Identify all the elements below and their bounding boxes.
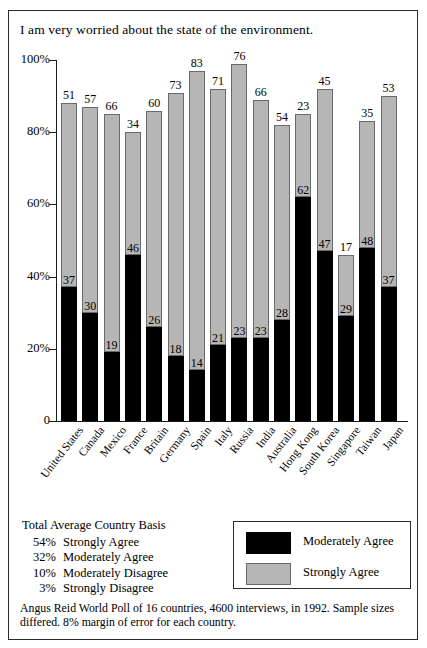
bar-value-strongly-agree: 23 (289, 100, 317, 112)
summary-label: Strongly Disagree (63, 581, 154, 595)
bar-group[interactable]: 3548 (359, 121, 375, 421)
summary-heading: Total Average Country Basis (22, 518, 222, 534)
bar-segment-strongly-agree[interactable] (146, 111, 162, 328)
summary-row: 54%Strongly Agree (22, 535, 222, 551)
y-axis-tick-label: 40% (4, 269, 50, 284)
legend-label: Strongly Agree (303, 565, 379, 580)
y-axis-tick-label: 100% (4, 52, 50, 67)
bar-segment-moderately-agree[interactable] (125, 255, 141, 421)
y-axis-line (56, 60, 57, 422)
chart-title: I am very worried about the state of the… (20, 22, 313, 38)
bar-segment-strongly-agree[interactable] (104, 114, 120, 352)
summary-row: 3%Strongly Disagree (22, 581, 222, 597)
bar-segment-strongly-agree[interactable] (82, 107, 98, 313)
summary-percent: 32% (22, 550, 56, 566)
legend-swatch-gray (246, 563, 291, 585)
legend-swatch-black (246, 532, 291, 554)
bar-segment-strongly-agree[interactable] (253, 100, 269, 338)
bar-segment-strongly-agree[interactable] (61, 103, 77, 287)
bar-value-strongly-agree: 73 (162, 79, 190, 91)
y-axis-tick-label: 80% (4, 124, 50, 139)
y-axis-tick (49, 132, 57, 133)
y-axis-tick (49, 349, 57, 350)
bar-group[interactable]: 7318 (168, 93, 184, 422)
bar-group[interactable]: 6026 (146, 111, 162, 421)
summary-block: Total Average Country Basis 54%Strongly … (22, 518, 222, 597)
source-note: Angus Reid World Poll of 16 countries, 4… (20, 602, 402, 629)
bar-group[interactable]: 5337 (381, 96, 397, 421)
summary-label: Moderately Disagree (63, 566, 168, 580)
bar-segment-strongly-agree[interactable] (231, 64, 247, 338)
bar-group[interactable]: 4547 (317, 89, 333, 421)
bar-segment-moderately-agree[interactable] (61, 287, 77, 421)
summary-percent: 10% (22, 566, 56, 582)
bar-segment-strongly-agree[interactable] (359, 121, 375, 247)
bar-value-moderately-agree: 48 (353, 235, 381, 247)
bar-group[interactable]: 2362 (295, 114, 311, 421)
y-axis-tick (49, 204, 57, 205)
bar-value-strongly-agree: 66 (98, 100, 126, 112)
bar-value-strongly-agree: 66 (247, 86, 275, 98)
bar-segment-strongly-agree[interactable] (317, 89, 333, 251)
bar-group[interactable]: 5137 (61, 103, 77, 421)
y-axis-tick-label: 20% (4, 341, 50, 356)
bar-value-moderately-agree: 23 (247, 325, 275, 337)
bar-group[interactable]: 6623 (253, 100, 269, 421)
bar-group[interactable]: 8314 (189, 71, 205, 421)
bar-value-strongly-agree: 34 (119, 118, 147, 130)
bar-segment-strongly-agree[interactable] (210, 89, 226, 345)
bar-segment-strongly-agree[interactable] (168, 93, 184, 357)
bar-value-moderately-agree: 26 (140, 314, 168, 326)
bar-segment-strongly-agree[interactable] (381, 96, 397, 287)
source-line-1: Angus Reid World Poll of 16 countries, 4… (20, 602, 402, 616)
bar-value-strongly-agree: 83 (183, 57, 211, 69)
plot-area: 5137573066193446602673188314712176236623… (56, 60, 408, 422)
bar-value-moderately-agree: 46 (119, 242, 147, 254)
bar-value-moderately-agree: 18 (162, 343, 190, 355)
x-axis-labels: United StatesCanadaMexicoFranceBritainGe… (56, 424, 416, 502)
bar-segment-moderately-agree[interactable] (295, 197, 311, 421)
bar-value-strongly-agree: 71 (204, 75, 232, 87)
chart-page: I am very worried about the state of the… (0, 0, 427, 648)
summary-label: Strongly Agree (63, 535, 139, 549)
summary-row: 10%Moderately Disagree (22, 566, 222, 582)
bar-value-moderately-agree: 28 (268, 307, 296, 319)
bar-value-strongly-agree: 35 (353, 107, 381, 119)
bar-value-strongly-agree: 76 (225, 50, 253, 62)
y-axis-tick-label: 0 (4, 413, 50, 428)
summary-label: Moderately Agree (63, 550, 154, 564)
bar-group[interactable]: 6619 (104, 114, 120, 421)
summary-percent: 54% (22, 535, 56, 551)
summary-rows: 54%Strongly Agree32%Moderately Agree10%M… (22, 535, 222, 597)
bar-group[interactable]: 7121 (210, 89, 226, 421)
bar-value-moderately-agree: 30 (76, 300, 104, 312)
bar-value-moderately-agree: 37 (55, 274, 83, 286)
bar-group[interactable]: 5428 (274, 125, 290, 421)
bar-value-moderately-agree: 62 (289, 184, 317, 196)
bar-segment-strongly-agree[interactable] (189, 71, 205, 371)
bar-group[interactable]: 3446 (125, 132, 141, 421)
source-line-2: differed. 8% margin of error for each co… (20, 616, 402, 630)
y-axis-tick (49, 421, 57, 422)
bar-group[interactable]: 7623 (231, 64, 247, 421)
bar-value-strongly-agree: 54 (268, 111, 296, 123)
bar-value-strongly-agree: 53 (375, 82, 403, 94)
bar-value-moderately-agree: 29 (332, 303, 360, 315)
legend-label: Moderately Agree (303, 534, 394, 549)
bar-value-strongly-agree: 45 (311, 75, 339, 87)
bar-group[interactable]: 5730 (82, 107, 98, 421)
y-axis-tick (49, 60, 57, 61)
bar-segment-strongly-agree[interactable] (125, 132, 141, 255)
summary-percent: 3% (22, 581, 56, 597)
bar-value-strongly-agree: 60 (140, 97, 168, 109)
bar-value-moderately-agree: 14 (183, 357, 211, 369)
y-axis-labels: 020%40%60%80%100% (0, 60, 50, 422)
chart-legend: Moderately AgreeStrongly Agree (233, 521, 411, 589)
summary-row: 32%Moderately Agree (22, 550, 222, 566)
bar-segment-strongly-agree[interactable] (274, 125, 290, 320)
bar-value-moderately-agree: 37 (375, 274, 403, 286)
bar-value-moderately-agree: 19 (98, 339, 126, 351)
y-axis-tick-label: 60% (4, 196, 50, 211)
